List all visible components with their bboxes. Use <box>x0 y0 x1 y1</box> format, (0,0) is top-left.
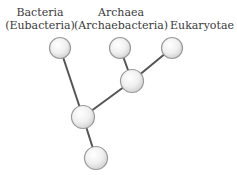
label-bacteria: Bacteria (Eubacteria) <box>4 6 76 32</box>
tree-nodes <box>50 38 183 170</box>
node-root <box>85 147 108 170</box>
phylogenetic-tree-diagram: Bacteria (Eubacteria) Archaea (Archaebac… <box>0 0 237 175</box>
label-archaea-alt: (Archaebacteria) <box>74 19 168 32</box>
label-bacteria-name: Bacteria <box>4 6 76 19</box>
node-eukaryotes <box>162 38 183 59</box>
label-archaea-name: Archaea <box>74 6 168 19</box>
tree-edges <box>60 48 172 158</box>
label-eukaryotes: Eukaryotae <box>168 19 236 32</box>
label-bacteria-alt: (Eubacteria) <box>4 19 76 32</box>
node-bacteria <box>50 38 71 59</box>
label-eukaryotes-name: Eukaryotae <box>168 19 236 32</box>
node-archaea <box>110 38 131 59</box>
node-archaea-eukaryote-ancestor <box>121 70 144 93</box>
node-common-ancestor <box>72 106 95 129</box>
label-archaea: Archaea (Archaebacteria) <box>74 6 168 32</box>
